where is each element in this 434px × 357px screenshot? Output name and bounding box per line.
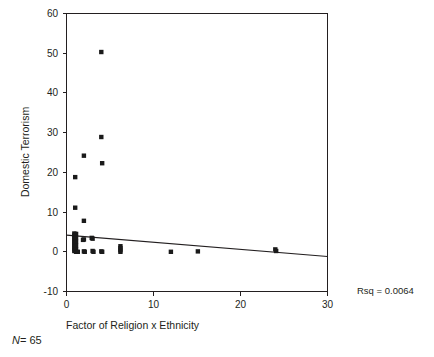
data-point [74,232,78,236]
scatter-plot-figure: 60 50 40 30 20 10 0 -10 0 10 20 30 Facto… [0,0,434,357]
data-point [74,236,78,240]
data-point [74,240,78,244]
x-axis-ticks [67,292,328,296]
x-tick-label-10: 10 [148,299,160,310]
data-point [99,50,103,54]
y-tick-label-0: 0 [52,246,58,257]
data-point [274,249,278,253]
rsq-annotation: Rsq = 0.0064 [357,285,414,296]
data-point [99,135,103,139]
data-point [90,236,94,240]
data-point [74,244,78,248]
y-tick-label-40: 40 [47,87,59,98]
data-point [100,161,104,165]
data-point [118,250,122,254]
data-point [196,249,200,253]
x-axis-tick-labels: 0 10 20 30 [64,299,334,310]
data-point [76,250,80,254]
y-tick-label-30: 30 [47,127,59,138]
data-point [169,250,173,254]
data-point [100,250,104,254]
x-tick-label-20: 20 [235,299,247,310]
data-point [83,250,87,254]
data-point [82,237,86,241]
sample-size-note: N= 65 [12,334,42,346]
data-point [82,219,86,223]
data-point [91,250,95,254]
y-tick-label-10: 10 [47,207,59,218]
y-axis-tick-labels: 60 50 40 30 20 10 0 -10 [44,8,59,297]
scatter-markers [72,50,278,254]
y-tick-label-50: 50 [47,48,59,59]
y-axis-ticks [63,14,67,292]
data-point [73,175,77,179]
chart-canvas: 60 50 40 30 20 10 0 -10 0 10 20 30 Facto… [0,0,434,357]
x-axis-title: Factor of Religion x Ethnicity [66,319,200,331]
y-tick-label-20: 20 [47,167,59,178]
data-point [73,206,77,210]
sample-size-symbol: N [12,334,20,346]
y-tick-label-60: 60 [47,8,59,19]
x-tick-label-0: 0 [64,299,70,310]
y-axis-title: Domestic Terrorism [19,107,31,197]
y-tick-label-minus10: -10 [44,286,59,297]
sample-size-value: = 65 [20,334,42,346]
x-tick-label-30: 30 [322,299,334,310]
data-point [82,153,86,157]
